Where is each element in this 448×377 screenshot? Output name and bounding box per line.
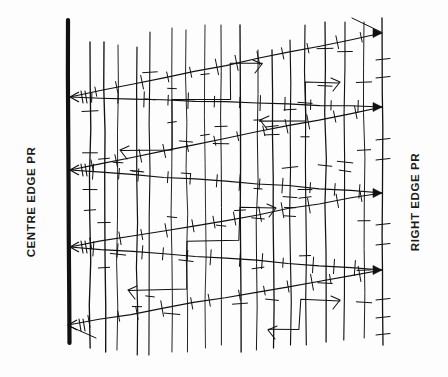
tick-mark [98,267,109,268]
tick-mark [266,299,279,300]
tick-mark [298,102,312,103]
tick-mark [376,77,390,79]
tick-mark [356,82,371,83]
tick-mark [357,270,371,271]
converging-lines-group [68,33,382,325]
tick-mark [376,224,390,226]
bracket-c [259,82,339,121]
tick-mark [81,164,83,176]
tick-mark [142,246,143,259]
tick-mark [190,174,191,185]
tick-mark [167,217,176,218]
tick-mark [119,168,120,179]
tick-mark [168,122,177,123]
bracket-hook-icon [331,78,340,91]
tick-mark [318,283,332,284]
tick-mark [181,173,190,174]
tick-mark [85,164,87,176]
tick-mark [84,210,95,211]
tick-mark [213,216,215,228]
centre-edge-pr-line [68,20,70,343]
bracket-hook-icon [128,286,137,299]
bracket-hook-icon [253,60,262,73]
node-right-3-arrowhead-icon [373,189,382,198]
tick-mark [210,250,211,265]
tick-mark [354,261,355,276]
tick-mark [180,141,193,142]
tick-mark [310,183,311,193]
tick-mark [188,93,189,109]
tick-mark [143,72,158,73]
vertical-gridline-16 [344,22,345,340]
tick-mark [233,303,248,304]
right-edge-pr-line [382,18,383,345]
tick-mark [334,259,335,273]
vertical-gridline-15 [325,22,327,342]
tick-mark [187,251,188,261]
bracket-d [268,299,340,329]
tick-mark [260,96,261,111]
tick-mark [265,134,279,135]
tick-mark [283,258,284,267]
leader-stroke-bottom-left [69,326,96,338]
tick-mark [282,178,283,193]
tick-mark [376,59,390,61]
wedge-2-upper [70,107,382,170]
bracket-hook-icon [331,296,340,309]
tick-mark [201,134,210,135]
tick-mark [201,74,209,75]
vertical-gridlines-group [89,22,365,355]
leader-stroke-top-right [352,18,381,32]
tick-mark [356,302,371,303]
tick-mark [266,126,278,127]
tick-mark [138,169,139,181]
tick-mark [235,210,246,211]
tick-mark [79,319,81,331]
bracket-hook-icon [267,204,276,217]
vertical-gridline-11 [256,50,258,350]
vertical-gridline-14 [305,25,307,345]
tick-mark [85,241,87,253]
tick-mark [285,216,296,217]
tick-mark [146,296,155,297]
tick-mark [167,172,168,183]
tick-mark [216,175,217,187]
centre-edge-pr-label: CENTRE EDGE PR [25,127,37,277]
node-right-2-arrowhead-icon [373,103,382,112]
tick-mark [82,111,98,112]
tick-mark [318,165,332,167]
node-right-4-arrowhead-icon [373,266,382,275]
tick-mark [252,218,265,219]
right-edge-pr-label: RIGHT EDGE PR [409,127,421,277]
tick-mark [313,257,314,273]
tick-mark [164,313,180,314]
vertical-gridline-9 [221,25,222,345]
vertical-gridline-1 [89,42,91,348]
wedge-1-lower [70,97,382,107]
tick-mark [110,253,125,255]
tick-mark [83,319,85,331]
tick-mark [376,244,390,246]
bracket-b [129,207,276,290]
bracket-hook-icon [268,326,277,339]
tick-mark [262,254,263,269]
tick-mark [299,197,311,199]
vertical-gridline-2 [104,42,106,352]
tick-mark [357,150,370,151]
tick-mark [99,158,110,159]
tick-mark [254,188,262,189]
survey-diagram-svg [0,0,448,377]
tick-mark [259,179,260,189]
drawing-canvas: CENTRE EDGE PR RIGHT EDGE PR [0,0,448,377]
vertical-gridline-13 [290,40,292,345]
tick-mark [144,92,145,107]
tick-mark [81,241,83,253]
tick-mark [163,248,164,260]
vertical-gridline-10 [240,25,241,352]
tick-mark [216,225,226,226]
wedge-3-upper [70,193,382,247]
vertical-gridline-12 [272,50,274,348]
tick-mark [284,109,296,110]
tick-mark [113,162,123,163]
tick-mark [334,184,335,196]
